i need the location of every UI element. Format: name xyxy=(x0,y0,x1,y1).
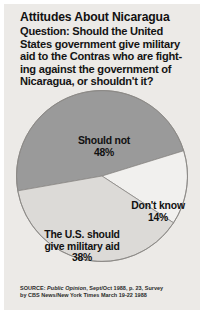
infographic-card: Attitudes About Nicaragua Question: Shou… xyxy=(4,4,200,310)
pie-label-dont-know-value: 14% xyxy=(112,212,200,224)
pie-label-military-aid: The U.S. should give military aid 38% xyxy=(24,229,140,264)
question-line-1: Question: Should the United xyxy=(20,25,196,38)
question-line-3: aid to the Contras who are fight- xyxy=(20,50,196,63)
pie-label-military-aid-text-2: give military aid xyxy=(24,241,140,253)
pie-label-military-aid-text-1: The U.S. should xyxy=(24,229,140,241)
source-line-2: by CBS News/New York Times March 19-22 1… xyxy=(20,292,198,299)
source-line-1: SOURCE: Public Opinion, Sept/Oct 1988, p… xyxy=(20,285,198,292)
pie-label-should-not: Should not 48% xyxy=(52,135,156,158)
question-line-5: Nicaragua, or shouldn't it? xyxy=(20,75,196,88)
pie-label-should-not-text: Should not xyxy=(52,135,156,147)
header-block: Attitudes About Nicaragua Question: Shou… xyxy=(20,11,196,88)
source-prefix: SOURCE: xyxy=(20,285,47,291)
pie-label-military-aid-value: 38% xyxy=(24,252,140,264)
pie-label-dont-know: Don't know 14% xyxy=(112,200,200,223)
question-text: Question: Should the United States gover… xyxy=(20,25,196,88)
source-line-1-rest: , Sept/Oct 1988, p. 23, Survey xyxy=(86,285,163,291)
question-line-4: ing against the government of xyxy=(20,63,196,76)
pie-label-should-not-value: 48% xyxy=(52,147,156,159)
pie-label-dont-know-text: Don't know xyxy=(112,200,200,212)
page-title: Attitudes About Nicaragua xyxy=(20,11,196,24)
question-line-2: States government give military xyxy=(20,38,196,51)
source-publication: Public Opinion xyxy=(47,285,86,291)
source-note: SOURCE: Public Opinion, Sept/Oct 1988, p… xyxy=(20,285,198,299)
